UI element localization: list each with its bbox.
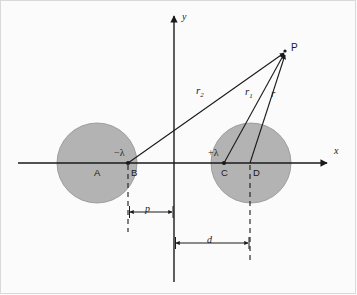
x-axis-label: x <box>334 146 338 156</box>
p-dimension-label: p <box>145 204 150 214</box>
positive-lambda-label: +λ <box>208 148 219 158</box>
vector-r2-label: r2 <box>196 85 204 99</box>
vector-r-label: r <box>271 88 275 99</box>
right-cylinder-center-label: D <box>253 168 260 178</box>
field-point-dot <box>283 49 286 52</box>
y-axis-label: y <box>182 12 186 22</box>
charge-dot-B <box>126 161 130 165</box>
vector-r1-label: r1 <box>245 86 253 100</box>
negative-lambda-label: −λ <box>114 148 125 158</box>
figure-canvas: x y A B −λ C D +λ P r2 r1 r p d <box>0 0 357 295</box>
left-cylinder-center-label: A <box>94 168 100 178</box>
field-point-label: P <box>291 43 298 53</box>
left-line-charge-label: B <box>131 168 137 178</box>
charge-dot-C <box>222 161 226 165</box>
d-dimension-label: d <box>207 235 212 245</box>
diagram-svg <box>0 0 357 295</box>
right-line-charge-label: C <box>221 168 228 178</box>
